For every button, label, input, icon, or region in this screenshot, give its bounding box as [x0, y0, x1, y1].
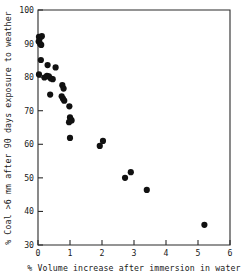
data-point [61, 85, 67, 91]
y-tick-label: 100 [19, 5, 34, 15]
scatter-plot-figure: 0123456 30405060708090100 % Volume incre… [0, 0, 242, 276]
plot-frame [38, 10, 230, 245]
y-tick-label: 30 [24, 240, 34, 250]
data-point [53, 64, 59, 70]
x-axis-ticks: 0123456 [36, 240, 233, 258]
data-point [66, 103, 72, 109]
data-point [41, 74, 47, 80]
x-tick-label: 2 [100, 248, 105, 258]
data-points-layer [36, 33, 208, 228]
data-point [36, 71, 42, 77]
data-point [67, 135, 73, 141]
x-tick-label: 3 [132, 248, 137, 258]
x-tick-label: 6 [228, 248, 233, 258]
x-tick-label: 5 [196, 248, 201, 258]
y-tick-label: 90 [24, 39, 34, 49]
x-tick-label: 4 [164, 248, 169, 258]
y-tick-label: 60 [24, 139, 34, 149]
y-axis-title: % Coal >6 mm after 90 days exposure to w… [3, 11, 13, 245]
data-point [61, 98, 67, 104]
data-point [128, 169, 134, 175]
chart-canvas: 0123456 30405060708090100 % Volume incre… [0, 0, 242, 276]
data-point [144, 187, 150, 193]
data-point [38, 42, 44, 48]
data-point [201, 222, 207, 228]
data-point [122, 175, 128, 181]
data-point [38, 57, 44, 63]
data-point [66, 119, 72, 125]
x-axis-title: % Volume increase after immersion in wat… [27, 263, 240, 273]
x-tick-label: 1 [68, 248, 73, 258]
data-point [47, 92, 53, 98]
data-point [45, 62, 51, 68]
y-tick-label: 50 [24, 173, 34, 183]
y-tick-label: 40 [24, 206, 34, 216]
x-tick-label: 0 [36, 248, 41, 258]
axes-frame [38, 10, 230, 245]
y-tick-label: 70 [24, 106, 34, 116]
data-point [100, 138, 106, 144]
y-tick-label: 80 [24, 72, 34, 82]
data-point [50, 76, 56, 82]
data-point [39, 33, 45, 39]
